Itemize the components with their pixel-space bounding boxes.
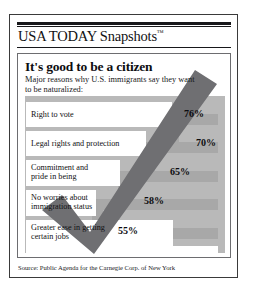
row-value-5: 55% (118, 225, 138, 236)
chart-panel: It's good to be a citizen Major reasons … (17, 53, 231, 258)
row-label-5: Greater ease in getting certain jobs (31, 223, 105, 241)
row-plate-bottom-fill (26, 246, 218, 254)
row-label-3: Commitment and pride in being (31, 163, 88, 181)
page-title: It's good to be a citizen (25, 59, 152, 75)
masthead: USA TODAY Snapshots™ (17, 22, 231, 48)
snapshot-page: USA TODAY Snapshots™ It's good to be a c… (0, 0, 257, 301)
trademark-symbol: ™ (157, 29, 164, 37)
masthead-title-text: USA TODAY Snapshots (18, 28, 157, 44)
row-label-4: No worries about immigration status (31, 193, 92, 211)
row-label-2: Legal rights and protection (31, 139, 119, 148)
row-label-1: Right to vote (31, 110, 74, 119)
stair-step-3 (118, 171, 218, 182)
source-note: Source: Public Agenda for the Carnegie C… (18, 264, 175, 271)
masthead-rule-thick (17, 22, 231, 25)
row-value-4: 58% (144, 195, 164, 206)
row-value-1: 76% (184, 108, 204, 119)
chart-subtitle: Major reasons why U.S. immigrants say th… (25, 75, 201, 94)
snapshot-card: USA TODAY Snapshots™ It's good to be a c… (9, 14, 238, 278)
row-value-2: 70% (196, 137, 216, 148)
masthead-rule-bottom (17, 47, 231, 48)
row-value-3: 65% (170, 166, 190, 177)
masthead-title: USA TODAY Snapshots™ (17, 27, 231, 46)
